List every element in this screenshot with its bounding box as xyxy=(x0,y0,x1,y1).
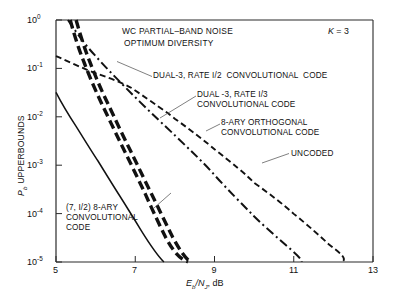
x-tick-label-0: 5 xyxy=(53,265,58,275)
x-tick-label-1: 7 xyxy=(132,265,137,275)
annotation-dual3-rate-half: DUAL-3, RATE I/2 CONVOLUTIONAL CODE xyxy=(153,71,327,82)
plot-background xyxy=(56,20,373,262)
y-tick-mantissa-0: 10 xyxy=(27,15,37,25)
y-tick-exponent-3: -3 xyxy=(37,158,43,165)
y-tick-mantissa-2: 10 xyxy=(27,112,37,122)
annotation-uncoded: UNCODED xyxy=(291,149,333,160)
y-tick-label-3: 10-3 xyxy=(27,158,43,170)
annotation-dual3-rate-third-line1: DUAL -3, RATE I/3 xyxy=(197,90,268,101)
y-tick-exponent-5: -5 xyxy=(37,255,43,262)
y-tick-mantissa-1: 10 xyxy=(27,63,37,73)
y-axis-title: Pb UPPERBOUNDS xyxy=(16,115,28,196)
annotation-8ary-orthogonal-line1: 8-ARY ORTHOGONAL xyxy=(221,118,308,129)
x-tick-label-4: 13 xyxy=(368,265,378,275)
y-tick-exponent-2: -2 xyxy=(37,110,43,117)
x-axis-title: Eb/NJ, dB xyxy=(186,278,224,290)
annotation-7-half-8ary-line3: CODE xyxy=(66,223,90,234)
chart-header-line-1: WC PARTIAL–BAND NOISE xyxy=(122,26,233,38)
y-tick-label-0: 100 xyxy=(27,13,41,25)
annotation-7-half-8ary-line2: CONVOLUTIONAL xyxy=(66,213,138,224)
parameter-k-annotation: K = 3 xyxy=(328,26,349,36)
y-tick-label-2: 10-2 xyxy=(27,110,43,122)
y-axis-title-rest: UPPERBOUNDS xyxy=(16,115,26,186)
x-tick-label-3: 11 xyxy=(289,265,298,275)
x-tick-label-2: 9 xyxy=(212,265,217,275)
annotation-8ary-orthogonal-line2: CONVOLUTIONAL CODE xyxy=(221,128,319,139)
y-tick-label-1: 10-1 xyxy=(27,61,43,73)
y-tick-exponent-1: -1 xyxy=(37,61,43,68)
chart-header-line-2: OPTIMUM DIVERSITY xyxy=(124,38,213,50)
y-tick-mantissa-3: 10 xyxy=(27,160,37,170)
chart-figure: WC PARTIAL–BAND NOISE OPTIMUM DIVERSITY … xyxy=(0,0,394,300)
annotation-dual3-rate-third-line2: CONVOLUTIONAL CODE xyxy=(197,100,295,111)
y-axis-title-sub-b: b xyxy=(21,186,28,190)
x-axis-title-unit: , dB xyxy=(208,278,224,288)
annotation-7-half-8ary-line1: (7, I/2) 8-ARY xyxy=(66,203,118,214)
y-tick-exponent-4: -4 xyxy=(37,207,43,214)
y-tick-mantissa-5: 10 xyxy=(27,257,37,267)
y-tick-label-4: 10-4 xyxy=(27,207,43,219)
y-tick-label-5: 10-5 xyxy=(27,255,43,267)
y-tick-exponent-0: 0 xyxy=(37,13,41,20)
y-tick-mantissa-4: 10 xyxy=(27,209,37,219)
parameter-k-value: = 3 xyxy=(334,26,349,36)
y-axis-title-p: P xyxy=(16,190,26,196)
